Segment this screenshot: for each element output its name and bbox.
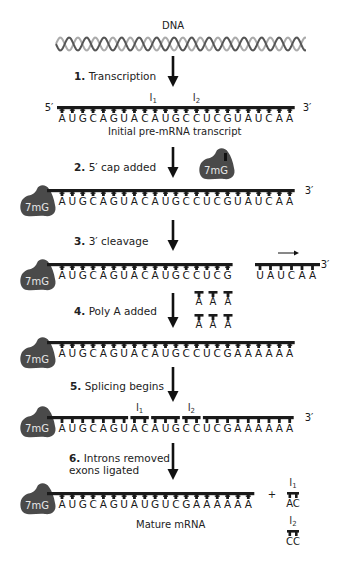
step-5-label: 5. Splicing begins — [70, 380, 164, 392]
base-tick-foot — [91, 110, 96, 111]
base-letter: C — [172, 498, 179, 510]
base-tick-foot — [163, 267, 168, 268]
base-tick-foot — [70, 193, 75, 194]
base-tick-foot — [132, 193, 137, 194]
base-letter: C — [141, 195, 148, 207]
initial-transcript-strand: AUGCAGUACAUGCCUCGUAUCAA — [57, 106, 295, 124]
base-letter: A — [276, 347, 284, 359]
base-tick-foot — [111, 267, 116, 268]
base-letter: A — [286, 422, 294, 434]
base-tick-foot — [142, 193, 147, 194]
base-letter: A — [276, 195, 284, 207]
base-tick-foot — [173, 345, 178, 346]
base-letter: U — [69, 347, 77, 359]
three-prime-label: 3′ — [303, 102, 312, 113]
base-tick-foot — [70, 496, 75, 497]
base-letter: A — [58, 269, 66, 281]
splicing-strand: AUGCAGUACAUGCCUCGAAAAAA — [47, 416, 294, 434]
step-6-text: Introns removed — [84, 452, 170, 464]
base-letter: A — [58, 422, 66, 434]
excised-intron-1: AC — [286, 492, 300, 509]
base-letter: C — [288, 269, 295, 281]
free-adenine: A — [224, 291, 233, 307]
base-letter: G — [224, 112, 232, 124]
base-letter: A — [225, 319, 232, 330]
base-letter: U — [203, 269, 211, 281]
cap-linker — [224, 153, 227, 161]
base-letter: A — [58, 498, 66, 510]
five-prime-label: 5′ — [45, 102, 54, 113]
initial-transcript-caption: Initial pre-mRNA transcript — [108, 126, 241, 138]
base-letter: C — [193, 112, 200, 124]
base-letter: U — [203, 422, 211, 434]
base-letter: A — [267, 269, 275, 281]
cap-label: 7mG — [25, 202, 49, 213]
base-tick-foot — [184, 267, 189, 268]
base-letter: A — [100, 195, 108, 207]
base-tick-foot — [122, 267, 127, 268]
strand-segment — [47, 416, 128, 419]
cap-label: 7mG — [25, 354, 49, 365]
base-letter: G — [110, 195, 118, 207]
base-letter: A — [286, 195, 294, 207]
base-letter: A — [245, 195, 253, 207]
free-cap: 7mG — [199, 148, 234, 179]
base-letter: U — [69, 422, 77, 434]
intron-sequence: AC — [286, 498, 300, 509]
base-letter: G — [224, 347, 232, 359]
base-letter: C — [141, 112, 148, 124]
base-letter: A — [286, 347, 294, 359]
cap-label: 7mG — [25, 423, 49, 434]
base-tick-foot — [256, 110, 261, 111]
arrow-step-2 — [168, 147, 179, 178]
three-prime-label: 3′ — [305, 412, 314, 423]
base-tick-foot — [91, 267, 96, 268]
base-tick-foot — [153, 267, 158, 268]
base-letter: U — [255, 195, 263, 207]
intron-label: I1 — [289, 477, 296, 490]
base-letter: C — [214, 347, 221, 359]
base-tick-foot — [194, 267, 199, 268]
base-letter: A — [265, 347, 273, 359]
base-tick-foot — [132, 110, 137, 111]
base-letter: A — [58, 112, 66, 124]
base-tick-foot — [267, 110, 272, 111]
base-letter: A — [276, 422, 284, 434]
intron-sequence: CC — [286, 536, 300, 547]
step-4-number: 4. — [74, 305, 85, 317]
base-tick-foot — [132, 496, 137, 497]
base-tick-foot — [225, 496, 230, 497]
base-letter: C — [265, 195, 272, 207]
base-letter: A — [265, 422, 273, 434]
base-letter: A — [131, 195, 139, 207]
arrow-head — [168, 317, 179, 328]
base-tick-foot — [163, 496, 168, 497]
base-tick-foot — [122, 496, 127, 497]
base-letter: U — [120, 498, 128, 510]
base-letter: U — [203, 347, 211, 359]
base-tick-foot — [225, 193, 230, 194]
base-letter: U — [256, 269, 264, 281]
base-tick-foot — [70, 267, 75, 268]
base-letter: U — [69, 269, 77, 281]
base-tick-foot — [194, 345, 199, 346]
base-letter: G — [110, 498, 118, 510]
diagram-canvas: 5′AUGCAGUACAUGCCUCGUAUCAA3′I1I27mG7mGAUG… — [0, 0, 349, 567]
base-letter: C — [89, 498, 96, 510]
base-tick-foot — [163, 110, 168, 111]
dna-helix — [56, 38, 306, 51]
base-letter: U — [162, 195, 170, 207]
strand-backbone — [47, 263, 233, 266]
base-tick-foot — [80, 267, 85, 268]
base-tick-foot — [122, 110, 127, 111]
base-letter: C — [214, 269, 221, 281]
arrow-step-4 — [168, 293, 179, 328]
base-letter: A — [286, 112, 294, 124]
base-letter: A — [131, 269, 139, 281]
base-tick-foot — [246, 345, 251, 346]
base-letter: C — [193, 422, 200, 434]
base-tick-foot — [235, 110, 240, 111]
arrow-step-5 — [168, 367, 179, 402]
base-tick-foot — [80, 110, 85, 111]
base-letter: A — [255, 347, 263, 359]
